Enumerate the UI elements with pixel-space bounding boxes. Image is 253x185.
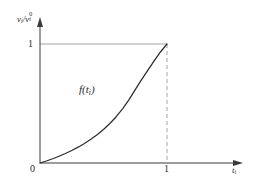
plot-canvas bbox=[0, 0, 253, 185]
figure-container: vi/v0i ti 1 1 0 f(ti) bbox=[0, 0, 253, 185]
y-axis-tick-label-1: 1 bbox=[28, 38, 33, 49]
function-curve bbox=[40, 44, 167, 163]
x-axis-tick-label-1: 1 bbox=[164, 163, 169, 174]
function-close-paren: ) bbox=[91, 83, 95, 95]
y-axis-label: vi/v0i bbox=[17, 13, 35, 24]
y-axis-denominator-indices: 0i bbox=[29, 13, 35, 22]
x-axis-subscript: i bbox=[235, 169, 237, 175]
x-axis-label: ti bbox=[232, 165, 236, 175]
function-annotation: f(ti) bbox=[79, 83, 95, 97]
y-axis-denominator-subscript: i bbox=[29, 16, 31, 22]
y-axis-arrow-icon bbox=[37, 17, 43, 27]
origin-label: 0 bbox=[30, 163, 35, 174]
